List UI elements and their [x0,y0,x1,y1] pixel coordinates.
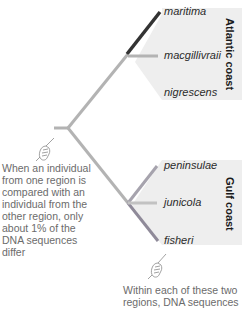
phylogenetic-tree-diagram: maritima macgillivraii nigrescens penins… [0,0,242,312]
taxon-peninsulae: peninsulae [164,159,217,171]
taxon-nigrescens: nigrescens [164,86,217,98]
note-between-regions: When an individual from one region is co… [2,162,97,258]
taxon-macgillivraii: macgillivraii [164,49,221,61]
taxon-maritima: maritima [164,5,206,17]
note-within-regions: Within each of these two regions, DNA se… [123,284,242,308]
taxon-junicola: junicola [164,196,201,208]
region-label-gulf: Gulf coast [224,177,236,231]
atlantic-stem [68,54,128,128]
pointing-hand-icon [146,252,170,280]
taxon-fisheri: fisheri [164,234,193,246]
pointing-hand-icon [34,136,58,162]
region-label-atlantic: Atlantic coast [224,18,236,90]
